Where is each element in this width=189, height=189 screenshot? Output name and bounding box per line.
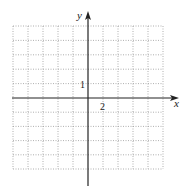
coordinate-plane: y x 1 2 xyxy=(0,0,189,189)
y-axis-label: y xyxy=(76,9,82,21)
x-axis xyxy=(12,95,179,101)
x-axis-label: x xyxy=(173,97,179,109)
y-tick-label-1: 1 xyxy=(80,79,85,90)
x-tick-label-2: 2 xyxy=(100,101,105,112)
